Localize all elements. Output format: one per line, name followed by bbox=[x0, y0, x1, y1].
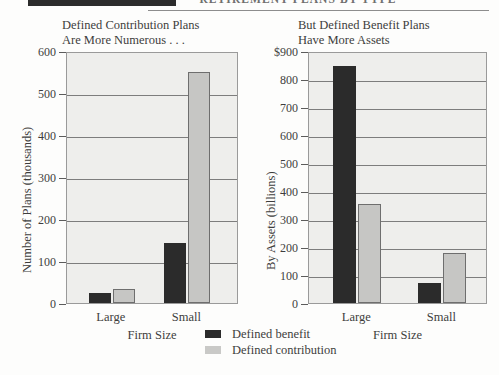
legend-swatch-icon-defined-contribution bbox=[205, 346, 221, 354]
legend: Defined benefit Defined contribution bbox=[205, 326, 337, 358]
y-axis-tick bbox=[59, 262, 66, 263]
figure-retirement-plans-by-type: RETIREMENT PLANS BY TYPE Defined Contrib… bbox=[0, 0, 499, 375]
y-axis-tick bbox=[59, 136, 66, 137]
gridline bbox=[67, 263, 237, 264]
gridline bbox=[67, 221, 237, 222]
chart-title-right-line2: Have More Assets bbox=[298, 33, 430, 48]
y-axis-tick-label: 800 bbox=[280, 73, 298, 88]
y-axis-tick-label: 100 bbox=[280, 269, 298, 284]
legend-swatch-icon-defined-benefit bbox=[205, 330, 221, 338]
y-axis-tick bbox=[59, 94, 66, 95]
plot-area-left bbox=[66, 52, 238, 304]
y-axis-tick bbox=[301, 80, 308, 81]
y-axis-tick-label: 200 bbox=[38, 213, 56, 228]
chart-title-left-line1: Defined Contribution Plans bbox=[62, 18, 200, 32]
chart-title-left-line2: Are More Numerous . . . bbox=[62, 33, 200, 48]
figure-header: RETIREMENT PLANS BY TYPE bbox=[0, 0, 499, 14]
x-axis-tick-label-small: Small bbox=[172, 310, 201, 325]
chart-title-right-line1: But Defined Benefit Plans bbox=[298, 18, 430, 32]
y-axis-tick bbox=[301, 248, 308, 249]
bar-small-defined-contribution bbox=[188, 72, 210, 303]
y-axis-tick-label: 400 bbox=[280, 185, 298, 200]
y-axis-tick-label: 700 bbox=[280, 101, 298, 116]
bar-small-defined-contribution bbox=[443, 253, 466, 303]
y-axis-tick-label: 100 bbox=[38, 255, 56, 270]
chart-title-left: Defined Contribution Plans Are More Nume… bbox=[62, 18, 200, 48]
bar-large-defined-benefit bbox=[89, 293, 111, 304]
legend-label-defined-contribution: Defined contribution bbox=[232, 343, 337, 358]
header-divider bbox=[148, 10, 489, 11]
bar-large-defined-benefit bbox=[333, 66, 356, 303]
x-axis-tick-label-large: Large bbox=[96, 310, 125, 325]
y-axis-tick bbox=[301, 164, 308, 165]
y-axis-tick-label: 600 bbox=[280, 129, 298, 144]
y-axis-tick-label: 600 bbox=[38, 45, 56, 60]
y-axis-tick bbox=[301, 52, 308, 53]
y-axis-title: By Assets (billions) bbox=[264, 171, 279, 270]
gridline bbox=[67, 95, 237, 96]
y-axis-tick-label: 0 bbox=[292, 297, 298, 312]
y-axis-tick-label: $900 bbox=[274, 45, 298, 60]
y-axis-tick bbox=[59, 220, 66, 221]
legend-item-defined-benefit: Defined benefit bbox=[205, 326, 337, 342]
y-axis-tick-label: 300 bbox=[280, 213, 298, 228]
gridline bbox=[67, 179, 237, 180]
page-title: RETIREMENT PLANS BY TYPE bbox=[148, 0, 448, 5]
y-axis-tick-label: 300 bbox=[38, 171, 56, 186]
y-axis-tick bbox=[301, 192, 308, 193]
bar-large-defined-contribution bbox=[358, 204, 381, 303]
y-axis-tick bbox=[301, 276, 308, 277]
plot-area-right bbox=[308, 52, 487, 304]
y-axis-tick bbox=[59, 178, 66, 179]
y-axis-tick bbox=[301, 220, 308, 221]
y-axis-tick-label: 200 bbox=[280, 241, 298, 256]
y-axis-tick bbox=[301, 304, 308, 305]
bar-small-defined-benefit bbox=[164, 243, 186, 303]
x-axis-tick-label-small: Small bbox=[427, 310, 456, 325]
chart-panel-plan-counts: Defined Contribution Plans Are More Nume… bbox=[10, 18, 246, 328]
y-axis-tick bbox=[59, 304, 66, 305]
y-axis-tick-label: 500 bbox=[38, 87, 56, 102]
bar-small-defined-benefit bbox=[418, 283, 441, 303]
x-axis-tick-label-large: Large bbox=[342, 310, 371, 325]
chart-panel-plan-assets: But Defined Benefit Plans Have More Asse… bbox=[246, 18, 496, 328]
legend-label-defined-benefit: Defined benefit bbox=[232, 327, 310, 342]
chart-title-right: But Defined Benefit Plans Have More Asse… bbox=[298, 18, 430, 48]
legend-item-defined-contribution: Defined contribution bbox=[205, 342, 337, 358]
y-axis-tick-label: 500 bbox=[280, 157, 298, 172]
y-axis-tick bbox=[301, 108, 308, 109]
x-axis-title: Firm Size bbox=[373, 328, 422, 343]
y-axis-tick bbox=[301, 136, 308, 137]
y-axis-tick-label: 0 bbox=[50, 297, 56, 312]
bar-large-defined-contribution bbox=[113, 289, 135, 303]
y-axis-tick bbox=[59, 52, 66, 53]
y-axis-title: Number of Plans (thousands) bbox=[20, 127, 35, 273]
x-axis-title: Firm Size bbox=[128, 328, 177, 343]
gridline bbox=[67, 137, 237, 138]
y-axis-tick-label: 400 bbox=[38, 129, 56, 144]
